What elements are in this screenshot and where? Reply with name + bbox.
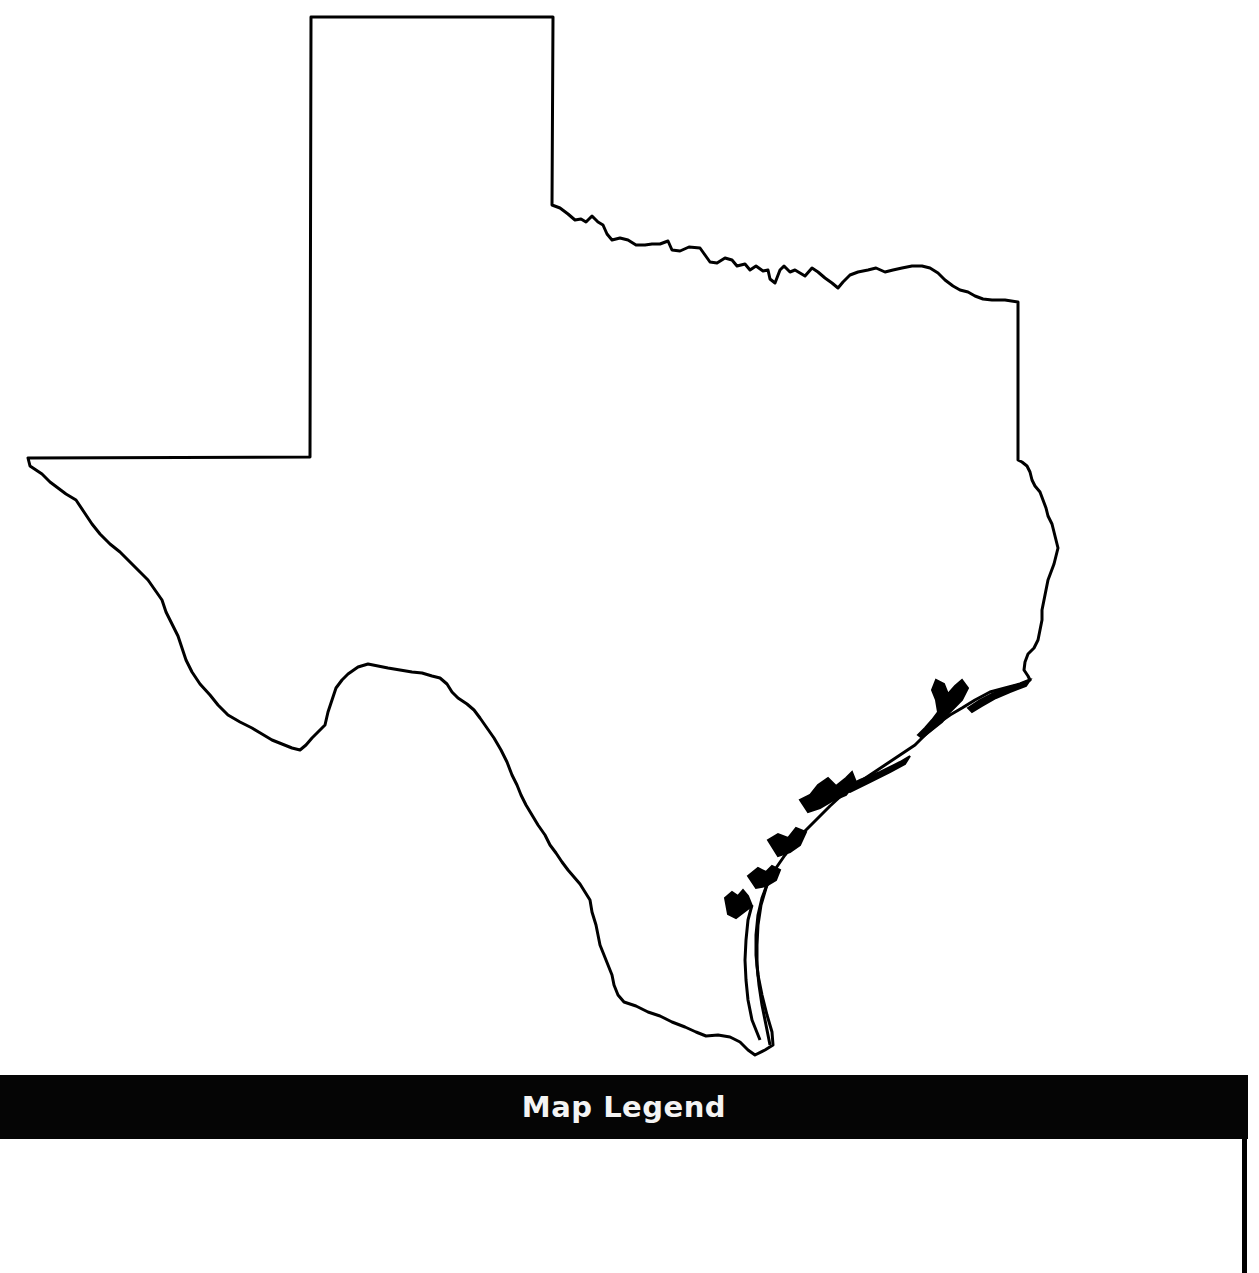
legend-header: Map Legend: [0, 1075, 1248, 1139]
state-outline: [28, 17, 1058, 1055]
map-canvas: [0, 0, 1259, 1070]
legend-title: Map Legend: [522, 1090, 726, 1124]
texas-outline-map: [0, 0, 1259, 1070]
legend-body: [0, 1139, 1247, 1273]
